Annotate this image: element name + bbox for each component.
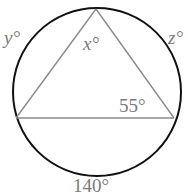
angle-label-x: x° xyxy=(82,33,99,54)
inscribed-triangle-diagram: y° x° z° 55° 140° xyxy=(0,0,188,193)
triangle-side-left xyxy=(16,9,96,118)
angle-label-55: 55° xyxy=(119,95,146,116)
arc-label-140: 140° xyxy=(73,175,109,193)
arc-label-z: z° xyxy=(167,27,183,48)
arc-label-y: y° xyxy=(2,27,20,48)
